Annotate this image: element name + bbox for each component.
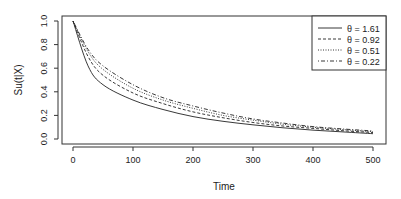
legend-entry: θ = 1.61 <box>347 24 380 34</box>
y-tick-label: 1.0 <box>39 15 49 28</box>
x-tick-label: 500 <box>365 155 380 165</box>
x-axis-label: Time <box>213 181 235 192</box>
y-tick-label: 0.6 <box>39 62 49 75</box>
y-axis: 0.00.20.40.60.81.0 <box>39 15 58 146</box>
survival-chart: 0100200300400500 0.00.20.40.60.81.0 Time… <box>0 0 401 199</box>
y-tick-label: 0.8 <box>39 38 49 51</box>
y-tick-label: 0.4 <box>39 86 49 99</box>
y-tick-label: 0.2 <box>39 109 49 122</box>
x-axis: 0100200300400500 <box>70 147 380 165</box>
x-tick-label: 100 <box>125 155 140 165</box>
legend-entry: θ = 0.92 <box>347 35 380 45</box>
x-tick-label: 300 <box>245 155 260 165</box>
legend-entry: θ = 0.22 <box>347 57 380 67</box>
legend-entry: θ = 0.51 <box>347 46 380 56</box>
legend: θ = 1.61θ = 0.92θ = 0.51θ = 0.22 <box>312 16 386 70</box>
x-tick-label: 200 <box>185 155 200 165</box>
y-tick-label: 0.0 <box>39 133 49 146</box>
y-axis-label: Su(t|X) <box>13 65 24 96</box>
x-tick-label: 400 <box>305 155 320 165</box>
x-tick-label: 0 <box>70 155 75 165</box>
